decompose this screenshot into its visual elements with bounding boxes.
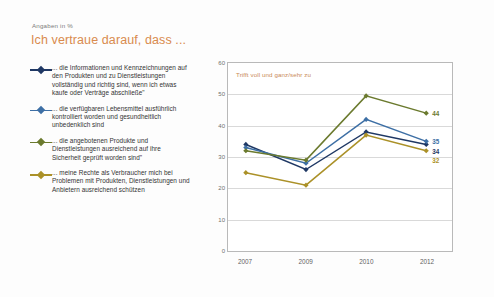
series-end-label: 32 xyxy=(432,157,439,164)
series-end-label: 35 xyxy=(432,138,439,145)
y-axis-tick-label: 60 xyxy=(218,60,225,66)
data-point-marker xyxy=(243,170,248,175)
y-axis-tick-label: 40 xyxy=(218,123,225,129)
plot-area: Trifft voll und ganz/sehr zu 01020304050… xyxy=(227,62,453,252)
series-lines xyxy=(228,63,452,251)
line-chart: Trifft voll und ganz/sehr zu 01020304050… xyxy=(203,62,471,278)
legend-item-2: ... die verfügbaren Lebensmittel ausführ… xyxy=(30,105,190,130)
x-axis-tick-label: 2012 xyxy=(420,258,434,265)
legend-item-3: ... die angebotenen Produkte und Dienstl… xyxy=(30,137,190,162)
units-note: Angaben in % xyxy=(32,22,73,29)
legend-marker-icon xyxy=(30,138,52,147)
series-end-label: 34 xyxy=(432,147,439,154)
y-axis-tick-label: 30 xyxy=(218,154,225,160)
x-axis: 2007200920102012 xyxy=(227,258,453,274)
y-axis-tick-label: 0 xyxy=(222,248,225,254)
series-end-label: 44 xyxy=(432,110,439,117)
legend-marker-icon xyxy=(30,65,52,74)
legend-item-label: ... die verfügbaren Lebensmittel ausführ… xyxy=(52,105,190,130)
slide-canvas: Angaben in % Ich vertraue darauf, dass .… xyxy=(0,0,494,297)
data-point-marker xyxy=(243,148,248,153)
legend-item-label: ... die angebotenen Produkte und Dienstl… xyxy=(52,137,190,162)
y-axis-tick-label: 20 xyxy=(218,185,225,191)
legend-item-label: ... die Informationen und Kennzeichnunge… xyxy=(52,64,190,98)
data-point-marker xyxy=(424,111,429,116)
y-axis-tick-label: 50 xyxy=(218,91,225,97)
page-title: Ich vertraue darauf, dass ... xyxy=(31,33,186,47)
series-line-4 xyxy=(246,135,426,185)
legend-item-label: ... meine Rechte als Verbraucher mich be… xyxy=(52,169,190,194)
legend-marker-icon xyxy=(30,170,52,179)
x-axis-tick-label: 2009 xyxy=(299,258,313,265)
legend-item-1: ... die Informationen und Kennzeichnunge… xyxy=(30,64,190,98)
series-line-1 xyxy=(246,132,426,170)
y-axis-tick-label: 10 xyxy=(218,217,225,223)
legend-marker-icon xyxy=(30,106,52,115)
data-point-marker xyxy=(424,139,429,144)
x-axis-tick-label: 2010 xyxy=(359,258,373,265)
legend-item-4: ... meine Rechte als Verbraucher mich be… xyxy=(30,169,190,194)
data-point-marker xyxy=(424,148,429,153)
chart-legend: ... die Informationen und Kennzeichnunge… xyxy=(30,64,190,201)
x-axis-tick-label: 2007 xyxy=(238,258,252,265)
series-line-2 xyxy=(246,119,426,163)
